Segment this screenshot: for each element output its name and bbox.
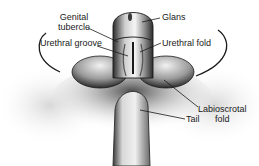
label-genital-tubercle: Genital tubercle bbox=[58, 12, 90, 32]
anatomy-figure: Genital tubercle Urethral groove Glans U… bbox=[0, 0, 259, 166]
label-urethral-groove: Urethral groove bbox=[40, 38, 102, 48]
label-genital-tubercle-line2: tubercle bbox=[58, 22, 90, 32]
label-genital-tubercle-line1: Genital bbox=[58, 12, 90, 22]
tail bbox=[113, 91, 150, 166]
label-labioscrotal-fold: Labioscrotal fold bbox=[198, 104, 247, 124]
label-labioscrotal-fold-line2: fold bbox=[198, 114, 247, 124]
label-tail: Tail bbox=[186, 114, 200, 124]
label-glans: Glans bbox=[162, 12, 186, 22]
label-labioscrotal-fold-line1: Labioscrotal bbox=[198, 104, 247, 114]
genital-tubercle bbox=[113, 13, 153, 79]
embryo-genitalia-illustration bbox=[0, 0, 259, 166]
label-urethral-fold: Urethral fold bbox=[162, 38, 211, 48]
